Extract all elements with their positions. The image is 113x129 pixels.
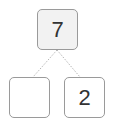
whole-value: 7 [51, 17, 63, 43]
whole-box: 7 [37, 9, 78, 50]
part-box-left[interactable] [9, 77, 50, 118]
connector-left [33, 50, 57, 77]
part-box-right: 2 [64, 77, 105, 118]
part-right-value: 2 [78, 85, 90, 111]
connector-right [57, 50, 80, 77]
